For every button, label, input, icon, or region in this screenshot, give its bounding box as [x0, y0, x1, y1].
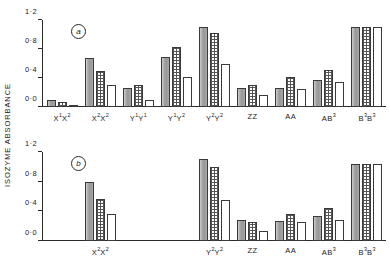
y-tick-mark [38, 77, 42, 78]
bar-group: AB3 [310, 20, 348, 107]
bar-set [348, 20, 386, 107]
x-tick-label: X1X2 [54, 112, 71, 123]
bar-set [234, 152, 272, 241]
bar-set [310, 152, 348, 241]
x-tick-label: AB3 [322, 112, 336, 123]
y-tick-label: 1·2 [25, 139, 37, 148]
panel-a: a 0·00·40·81·2 X1X2X2X2Y1Y1Y1Y2Y2Y2ZZAAA… [16, 8, 390, 134]
x-tick-label: X2X2 [92, 246, 109, 257]
bar-set [157, 20, 195, 107]
bar [161, 57, 170, 107]
bar-set [195, 20, 233, 107]
bar-group: Y2Y2 [195, 152, 233, 241]
bar-group: AA [272, 152, 310, 241]
plot-area-a: a 0·00·40·81·2 X1X2X2X2Y1Y1Y1Y2Y2Y2ZZAAA… [16, 8, 390, 134]
bar [362, 164, 371, 241]
bar [335, 82, 344, 107]
y-tick-label: 0·0 [25, 94, 37, 103]
bar [145, 100, 154, 107]
bar-set [81, 20, 119, 107]
bar [199, 27, 208, 107]
bar [172, 47, 181, 107]
bar-group: B3B3 [348, 20, 386, 107]
bar [351, 164, 360, 241]
bar [221, 64, 230, 108]
bar-group: X2X2 [81, 20, 119, 107]
bar-set [234, 20, 272, 107]
bar [373, 164, 382, 241]
bar [275, 88, 284, 107]
bar [58, 102, 67, 107]
bar [85, 58, 94, 107]
bar [210, 33, 219, 107]
x-tick-label: ZZ [248, 112, 258, 121]
bar-set [272, 20, 310, 107]
bar-set [119, 20, 157, 107]
bar [96, 71, 105, 107]
y-tick-label: 0·4 [25, 198, 37, 207]
y-tick-label: 0·4 [25, 65, 37, 74]
bar [297, 222, 306, 241]
x-tick-label: Y2Y2 [206, 112, 223, 123]
x-tick-label: Y1Y2 [168, 112, 185, 123]
bar [362, 27, 371, 107]
x-tick-label: ZZ [248, 246, 258, 255]
bar [237, 220, 246, 241]
bar-group: ZZ [234, 152, 272, 241]
bar-set [272, 152, 310, 241]
isozyme-absorbance-figure: ISOZYME ABSORBANCE a 0·00·40·81·2 X1X2X2… [0, 0, 390, 270]
bar-group: AA [272, 20, 310, 107]
bar [221, 200, 230, 241]
bar-group: AB3 [310, 152, 348, 241]
bar [324, 70, 333, 107]
bar-group: ZZ [234, 20, 272, 107]
bar [199, 159, 208, 241]
bar [259, 231, 268, 241]
bar [335, 220, 344, 242]
panel-b: b 0·00·40·81·2 X2X2Y2Y2ZZAAAB3B3B3 [16, 140, 390, 268]
bar [134, 85, 143, 107]
x-tick-label: X2X2 [92, 112, 109, 123]
bar [123, 88, 132, 107]
y-tick-label: 0·8 [25, 36, 37, 45]
bar-group: Y2Y2 [195, 20, 233, 107]
bar [107, 85, 116, 107]
bar [183, 77, 192, 107]
bar [313, 80, 322, 107]
bar [297, 89, 306, 107]
bar [275, 221, 284, 241]
x-tick-label: B3B3 [358, 246, 375, 257]
bar [69, 105, 78, 107]
bar-set [310, 20, 348, 107]
y-axis-title: ISOZYME ABSORBANCE [0, 0, 14, 270]
bar-groups-a: X1X2X2X2Y1Y1Y1Y2Y2Y2ZZAAAB3B3B3 [43, 20, 386, 107]
y-tick-mark [38, 151, 42, 152]
bar-group: Y1Y1 [119, 20, 157, 107]
y-tick-mark [38, 181, 42, 182]
bar-group: X2X2 [81, 152, 119, 241]
bar [248, 85, 257, 107]
bar [237, 88, 246, 107]
y-tick-mark [38, 19, 42, 20]
bar [96, 199, 105, 241]
x-tick-label: AA [285, 246, 296, 255]
x-tick-label: AB3 [322, 246, 336, 257]
plot-area-b: b 0·00·40·81·2 X2X2Y2Y2ZZAAAB3B3B3 [16, 140, 390, 268]
bar [107, 214, 116, 241]
bar-group: Y1Y2 [157, 20, 195, 107]
bar [313, 216, 322, 241]
bar [85, 182, 94, 241]
bar [286, 77, 295, 107]
bar [373, 27, 382, 107]
y-tick-label: 0·0 [25, 228, 37, 237]
y-tick-mark [38, 210, 42, 211]
x-tick-label: AA [285, 112, 296, 121]
y-tick-label: 0·8 [25, 168, 37, 177]
bar [259, 95, 268, 107]
bar [351, 27, 360, 107]
bar [47, 100, 56, 107]
bar-set [81, 152, 119, 241]
bar-set [43, 20, 81, 107]
bar-groups-b: X2X2Y2Y2ZZAAAB3B3B3 [43, 152, 386, 241]
bar [324, 208, 333, 241]
